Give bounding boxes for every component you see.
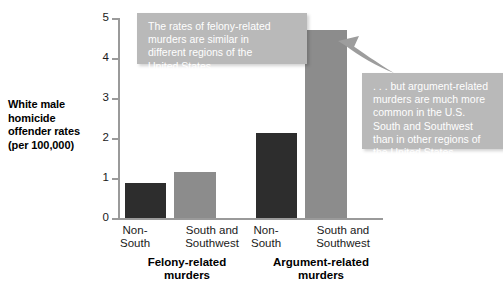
y-axis-title-line-3: offender rates <box>8 125 102 139</box>
callout-line-4: United States . . . <box>148 60 297 73</box>
y-tick-label-5: 5 <box>103 12 109 24</box>
x-axis-line <box>118 218 383 220</box>
y-tick-label-1: 1 <box>103 172 109 184</box>
callout-line-6: the United States. <box>373 146 493 159</box>
y-tick-label-2: 2 <box>103 132 109 144</box>
y-tick-mark-3 <box>112 98 118 100</box>
callout-line-3: common in the U.S. <box>373 106 493 119</box>
y-tick-mark-2 <box>112 138 118 140</box>
y-tick-mark-1 <box>112 178 118 180</box>
y-axis-line <box>118 18 120 218</box>
bar-felony-south-southwest <box>174 172 216 218</box>
y-tick-mark-5 <box>112 18 118 20</box>
bar-argument-non-south <box>256 133 297 218</box>
y-tick-label-0: 0 <box>103 212 109 224</box>
y-tick-label-4: 4 <box>103 52 109 64</box>
callout-line-1: The rates of felony-related <box>148 20 297 33</box>
bar-felony-non-south <box>125 183 166 218</box>
y-axis-title-line-1: White male <box>8 98 102 112</box>
callout-line-4: South and Southwest <box>373 120 493 133</box>
annotation-callout-felony: The rates of felony-related murders are … <box>137 13 307 64</box>
group-label-line-2: murders <box>238 269 404 282</box>
callout-line-5: than in other regions of <box>373 133 493 146</box>
y-tick-label-3: 3 <box>103 92 109 104</box>
annotation-callout-argument: . . . but argument-related murders are m… <box>362 73 503 149</box>
callout-line-2: murders are similar in <box>148 33 297 46</box>
callout-line-3: different regions of the <box>148 46 297 59</box>
callout-line-1: . . . but argument-related <box>373 80 493 93</box>
category-label-line-2: Southwest <box>291 237 395 250</box>
y-tick-mark-0 <box>112 218 118 220</box>
y-axis-title-line-2: homicide <box>8 112 102 126</box>
category-label-line-1: South and <box>291 224 395 237</box>
group-label-line-1: Argument-related <box>238 256 404 269</box>
group-label-argument: Argument-related murders <box>238 256 404 282</box>
category-label-argument-south-southwest: South and Southwest <box>291 224 395 250</box>
chart-figure: White male homicide offender rates (per … <box>0 0 503 293</box>
callout-line-2: murders are much more <box>373 93 493 106</box>
y-axis-title-line-4: (per 100,000) <box>8 139 102 153</box>
y-axis-title: White male homicide offender rates (per … <box>8 98 102 152</box>
y-tick-mark-4 <box>112 58 118 60</box>
